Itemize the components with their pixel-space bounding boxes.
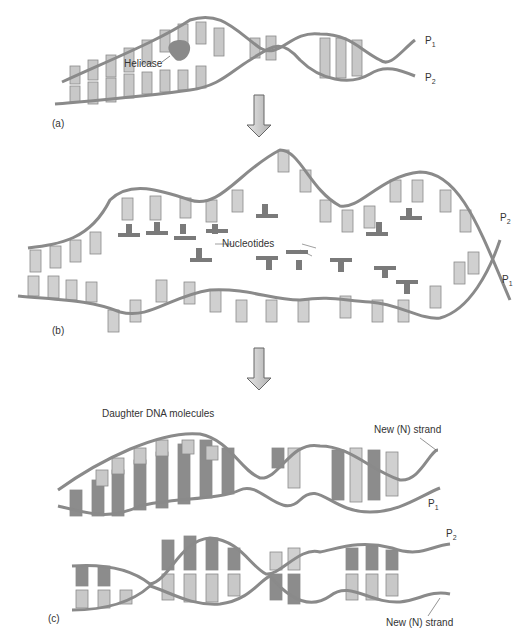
p2-label-c: P2: [446, 528, 457, 541]
p1-label-b: P1: [502, 274, 513, 287]
arrow-down-icon: [247, 348, 271, 390]
helicase-icon: [168, 40, 190, 61]
helicase-label: Helicase: [124, 58, 162, 69]
p2-label-b: P2: [500, 212, 511, 225]
p2-label-a: P2: [425, 72, 436, 85]
arrow-down-icon: [247, 95, 271, 137]
panel-c-daughter-1: [58, 434, 440, 516]
panel-c-daughter-2: [72, 536, 450, 616]
p1-label-a: P1: [425, 35, 436, 48]
panel-a-dna: [55, 17, 415, 104]
p1-label-c: P1: [428, 498, 439, 511]
new-strand-label-bottom: New (N) strand: [386, 617, 453, 628]
panel-b-label: (b): [52, 325, 64, 336]
panel-c-label: (c): [48, 613, 60, 624]
panel-a-label: (a): [52, 118, 64, 129]
nucleotides-label: Nucleotides: [222, 238, 274, 249]
daughter-dna-title: Daughter DNA molecules: [102, 408, 214, 419]
new-strand-label-top: New (N) strand: [374, 424, 441, 435]
dna-replication-diagram: [0, 0, 521, 634]
